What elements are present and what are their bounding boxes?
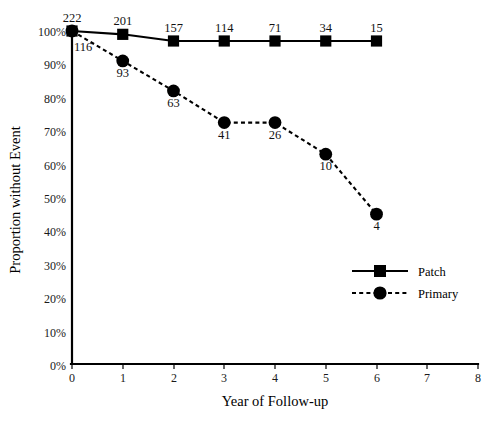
data-point-label: 222 (63, 11, 82, 25)
data-point-label: 71 (269, 21, 282, 35)
x-tick-label: 2 (171, 371, 177, 385)
data-point-label: 34 (320, 21, 333, 35)
legend-label: Patch (418, 265, 447, 279)
series-markers-primary (66, 25, 383, 221)
y-tick-label: 10% (44, 326, 66, 340)
y-tick-label: 60% (44, 159, 66, 173)
data-point-label: 93 (117, 66, 130, 80)
y-tick-label: 70% (44, 125, 66, 139)
series-point-labels-primary: 11693634126104 (74, 40, 380, 233)
y-tick-label: 0% (50, 359, 66, 373)
x-tick-label: 8 (475, 371, 481, 385)
y-tick-label: 50% (44, 192, 66, 206)
legend-marker-square (374, 265, 386, 277)
legend-item-patch[interactable]: Patch (352, 265, 447, 279)
x-axis-title: Year of Follow-up (222, 393, 328, 409)
data-point-marker (320, 35, 331, 46)
data-point-label: 4 (373, 219, 380, 233)
chart-figure: Proportion without Event Year of Follow-… (0, 0, 495, 421)
data-point-marker (66, 25, 77, 36)
data-point-marker (219, 35, 230, 46)
legend-marker-circle (373, 286, 386, 299)
x-tick-label: 7 (424, 371, 430, 385)
x-tick-label: 4 (272, 371, 278, 385)
data-point-label: 15 (370, 21, 383, 35)
x-tick-labels: 0 1 2 3 4 5 6 7 8 (69, 371, 481, 385)
data-point-marker (371, 35, 382, 46)
x-tick-label: 6 (374, 371, 380, 385)
y-tick-label: 30% (44, 259, 66, 273)
data-point-label: 157 (164, 21, 183, 35)
x-tick-label: 0 (69, 371, 75, 385)
x-tick-label: 3 (221, 371, 227, 385)
data-point-marker (168, 35, 179, 46)
legend: Patch Primary (352, 265, 459, 301)
legend-item-primary[interactable]: Primary (352, 286, 459, 301)
y-tick-label: 80% (44, 92, 66, 106)
x-tick-label: 1 (120, 371, 126, 385)
y-tick-labels: 100% 90% 80% 70% 60% 50% 40% 30% 20% 10%… (38, 25, 66, 373)
data-point-label: 26 (269, 128, 282, 142)
y-axis-title: Proportion without Event (7, 126, 23, 273)
y-tick-label: 40% (44, 225, 66, 239)
y-tick-label: 100% (38, 25, 66, 39)
data-point-label: 114 (215, 21, 234, 35)
x-tick-label: 5 (323, 371, 329, 385)
data-point-marker (269, 35, 280, 46)
data-point-label: 63 (167, 96, 180, 110)
data-point-label: 10 (320, 159, 333, 173)
y-tick-label: 90% (44, 58, 66, 72)
data-point-label: 201 (113, 14, 132, 28)
kaplan-meier-plot: Proportion without Event Year of Follow-… (0, 0, 495, 421)
series-point-labels-patch: 222201157114713415 (63, 11, 383, 35)
data-point-label: 116 (74, 40, 92, 54)
legend-label: Primary (418, 287, 459, 301)
data-point-label: 41 (218, 128, 231, 142)
data-point-marker (117, 29, 128, 40)
y-tick-label: 20% (44, 292, 66, 306)
